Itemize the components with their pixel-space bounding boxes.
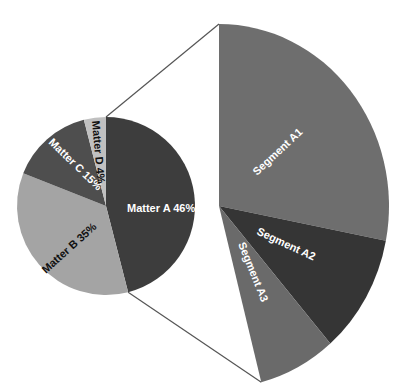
chart-canvas: Matter A 46% Matter B 35% Matter C 15% M… (0, 0, 415, 390)
label-matter-a: Matter A 46% (127, 202, 195, 214)
connector-line-bottom (128, 292, 261, 382)
secondary-sector (219, 24, 389, 382)
segment-a1[interactable] (219, 24, 389, 241)
connector-line-top (106, 24, 219, 117)
pie-of-pie-chart: Matter A 46% Matter B 35% Matter C 15% M… (0, 0, 415, 390)
